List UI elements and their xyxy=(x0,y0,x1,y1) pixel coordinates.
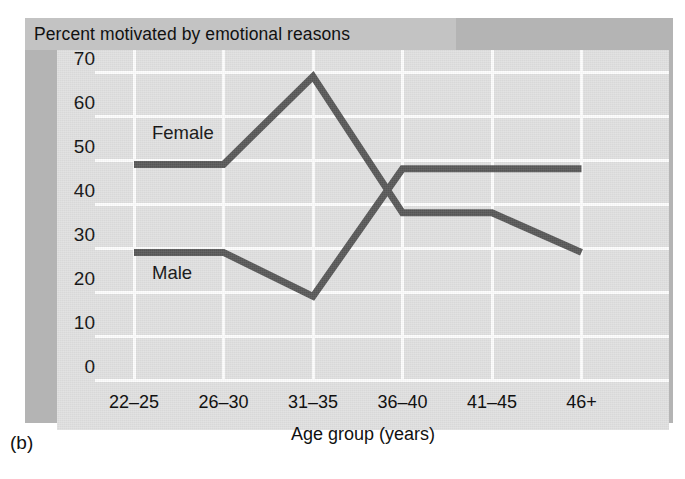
y-axis-tick-label: 60 xyxy=(59,93,95,112)
x-axis-tick-label: 41–45 xyxy=(467,392,517,413)
series-lines xyxy=(95,50,669,380)
y-axis-tick-label: 70 xyxy=(59,49,95,68)
figure-panel-b: Percent motivated by emotional reasons 0… xyxy=(0,0,685,479)
y-axis-tick-label: 0 xyxy=(59,357,95,376)
series-label-female: Female xyxy=(152,122,214,144)
y-axis-tick-label: 10 xyxy=(59,313,95,332)
chart-title: Percent motivated by emotional reasons xyxy=(25,24,350,45)
line-series-female xyxy=(134,76,582,252)
x-axis-tick-label: 22–25 xyxy=(109,392,159,413)
y-axis-tick-label: 30 xyxy=(59,225,95,244)
y-axis-tick-labels: 010203040506070 xyxy=(57,50,95,380)
x-axis-tick-labels: 22–2526–3031–3536–4041–4546+ xyxy=(57,392,669,418)
figure-caption: (b) xyxy=(10,432,33,454)
chart-panel: 010203040506070 Female Male xyxy=(57,50,669,430)
x-axis-tick-label: 46+ xyxy=(566,392,597,413)
x-axis-title: Age group (years) xyxy=(57,424,669,445)
x-axis-tick-label: 31–35 xyxy=(288,392,338,413)
y-axis-tick-label: 50 xyxy=(59,137,95,156)
series-label-male: Male xyxy=(152,262,192,284)
line-series-male xyxy=(134,169,582,297)
y-axis-tick-label: 20 xyxy=(59,269,95,288)
chart-title-band: Percent motivated by emotional reasons xyxy=(25,18,456,50)
x-axis-tick-label: 36–40 xyxy=(377,392,427,413)
x-axis-tick-label: 26–30 xyxy=(198,392,248,413)
y-axis-tick-label: 40 xyxy=(59,181,95,200)
plot-area: Female Male xyxy=(95,50,669,380)
